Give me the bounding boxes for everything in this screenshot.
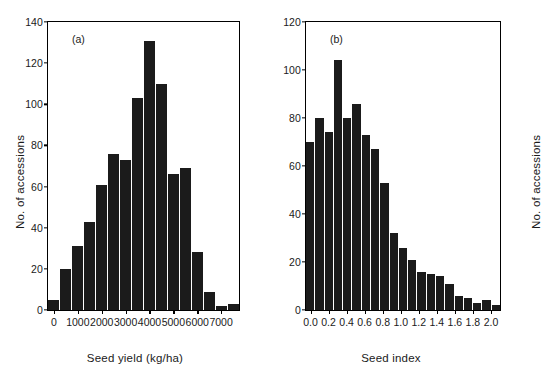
- bar: [325, 132, 333, 310]
- y-tick-mark: [44, 21, 48, 22]
- x-tick-mark: [311, 310, 312, 314]
- x-tick-mark: [173, 310, 174, 314]
- y-tick-mark: [44, 186, 48, 187]
- bar: [192, 252, 203, 310]
- bar: [380, 183, 388, 310]
- bar: [156, 84, 167, 310]
- x-axis-label-b: Seed index: [262, 352, 520, 364]
- x-tick-mark: [437, 310, 438, 314]
- bar: [72, 246, 83, 310]
- bar: [343, 118, 351, 310]
- plot-area-a: 020406080100120140 010002000300040005000…: [47, 21, 240, 311]
- bar: [352, 104, 360, 310]
- x-tick-mark: [347, 310, 348, 314]
- y-tick-mark: [44, 227, 48, 228]
- bar: [445, 284, 453, 310]
- y-axis-label-b: No. of accessions: [530, 135, 542, 229]
- bar: [204, 292, 215, 311]
- plot-area-b: 020406080100120 0.00.20.40.60.81.01.21.4…: [305, 21, 501, 311]
- panel-letter-b: (b): [330, 33, 343, 45]
- y-tick-mark: [44, 145, 48, 146]
- x-tick-mark: [221, 310, 222, 314]
- x-tick-mark: [383, 310, 384, 314]
- x-tick-mark: [365, 310, 366, 314]
- bar: [390, 233, 398, 310]
- x-axis-label-a: Seed yield (kg/ha): [6, 352, 264, 364]
- x-tick-mark: [473, 310, 474, 314]
- bar: [417, 272, 425, 310]
- bar: [436, 276, 444, 310]
- bar: [427, 274, 435, 310]
- y-tick-mark: [302, 261, 306, 262]
- y-tick-mark: [302, 117, 306, 118]
- bar: [132, 98, 143, 310]
- bar: [96, 185, 107, 310]
- x-tick-mark: [455, 310, 456, 314]
- bar: [120, 160, 131, 310]
- panel-letter-a: (a): [72, 33, 85, 45]
- panel-a: 020406080100120140 010002000300040005000…: [0, 0, 258, 381]
- bar-series-a: [48, 22, 239, 310]
- x-tick-mark: [491, 310, 492, 314]
- x-tick-mark: [197, 310, 198, 314]
- x-tick-mark: [102, 310, 103, 314]
- x-tick-mark: [401, 310, 402, 314]
- bar: [315, 118, 323, 310]
- y-axis-label-a: No. of accessions: [14, 135, 26, 229]
- y-tick-mark: [44, 104, 48, 105]
- x-tick-mark: [419, 310, 420, 314]
- y-tick-mark: [44, 62, 48, 63]
- y-tick-mark: [44, 309, 48, 310]
- bar: [362, 135, 370, 310]
- bar: [60, 269, 71, 310]
- bar: [473, 303, 481, 310]
- x-tick-mark: [78, 310, 79, 314]
- bar: [334, 60, 342, 310]
- y-tick-mark: [302, 69, 306, 70]
- bar: [464, 298, 472, 310]
- y-tick-mark: [302, 165, 306, 166]
- bar: [455, 296, 463, 310]
- bar: [306, 142, 314, 310]
- y-tick-mark: [44, 268, 48, 269]
- x-tick-mark: [54, 310, 55, 314]
- y-tick-mark: [302, 213, 306, 214]
- x-tick-mark: [329, 310, 330, 314]
- bar: [371, 149, 379, 310]
- x-tick-mark: [149, 310, 150, 314]
- bar: [84, 222, 95, 310]
- bar: [399, 248, 407, 310]
- bar: [144, 41, 155, 310]
- bar: [108, 154, 119, 310]
- bar: [408, 260, 416, 310]
- bar-series-b: [306, 22, 500, 310]
- panel-b: 020406080100120 0.00.20.40.60.81.01.21.4…: [258, 0, 516, 381]
- bar: [168, 174, 179, 310]
- x-tick-mark: [126, 310, 127, 314]
- y-tick-mark: [302, 21, 306, 22]
- bar: [482, 300, 490, 310]
- bar: [48, 300, 59, 310]
- bar: [180, 168, 191, 310]
